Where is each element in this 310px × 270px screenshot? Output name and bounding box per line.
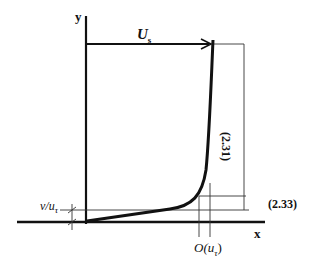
boundary-layer-diagram: y x Us (2.31) (2.33) v/uτ O(uτ) — [0, 0, 310, 270]
outer-region-label: (2.31) — [218, 132, 233, 161]
velocity-profile-curve — [87, 40, 213, 221]
sublayer-label: v/uτ — [40, 199, 58, 215]
x-axis-label: x — [254, 226, 261, 242]
order-label: O(uτ) — [194, 240, 222, 258]
diagram-graphics — [0, 0, 310, 270]
overlap-region-label: (2.33) — [268, 197, 297, 212]
velocity-label: Us — [137, 26, 151, 45]
y-axis-label: y — [75, 9, 82, 25]
outer-region-bracket — [213, 44, 244, 210]
